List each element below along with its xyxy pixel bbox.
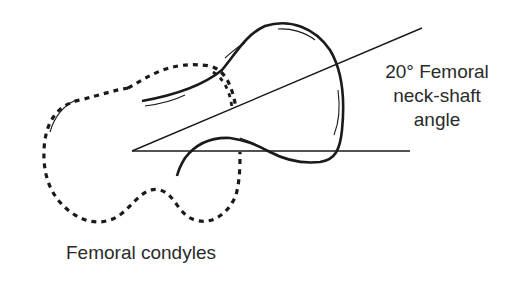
condyles-label: Femoral condyles <box>66 241 216 265</box>
angle-label-line-1: 20° Femoral <box>352 60 518 84</box>
angle-label: 20° Femoral neck-shaft angle <box>352 60 518 132</box>
femoral-condyles-outline <box>44 65 240 222</box>
head-side-highlight <box>334 90 339 135</box>
femoral-angle-diagram: 20° Femoral neck-shaft angle Femoral con… <box>0 0 518 284</box>
dashed-neck-connector <box>213 72 232 108</box>
angle-label-line-3: angle <box>352 108 518 132</box>
angle-label-line-2: neck-shaft <box>352 84 518 108</box>
